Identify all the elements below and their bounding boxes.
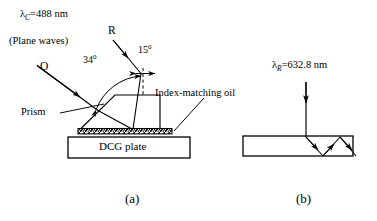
reference-beam-ray — [113, 40, 141, 129]
dcg-plate-label: DCG plate — [99, 141, 146, 152]
object-beam-ray — [37, 66, 132, 130]
prism-label: Prism — [21, 107, 46, 118]
panel-b-caption: (b) — [296, 192, 311, 205]
angle-15-label: 150 — [138, 44, 152, 55]
emulsion-layer — [78, 129, 172, 134]
wavelength-value-r: =632.8 nm — [282, 59, 328, 70]
diagram-canvas — [0, 0, 377, 221]
angle-34-label: 340 — [83, 54, 97, 65]
angle-15-value: 15 — [138, 44, 148, 55]
plane-waves-label: (Plane waves) — [9, 36, 68, 47]
panel-a-caption: (a) — [125, 192, 139, 205]
angle-34-value: 34 — [83, 54, 93, 65]
panel-b-wavelength-label: λR=632.8 nm — [272, 60, 327, 73]
oil-leader-line — [174, 98, 204, 131]
panel-a-wavelength-label: λC=488 nm — [20, 9, 68, 22]
beam-o-label: O — [40, 61, 48, 73]
angle-arc-34 — [96, 76, 141, 110]
prism-outline — [81, 95, 160, 129]
angle-34-degree: 0 — [93, 53, 97, 61]
guided-zigzag-ray — [306, 137, 356, 156]
index-matching-oil-label: Index-matching oil — [155, 88, 235, 99]
angle-15-degree: 0 — [148, 43, 152, 51]
readout-plate-rect — [243, 136, 353, 156]
wavelength-value-c: =488 nm — [30, 8, 68, 19]
optics-figure: λC=488 nm (Plane waves) R O 340 150 Pris… — [0, 0, 377, 221]
beam-r-label: R — [108, 25, 116, 37]
